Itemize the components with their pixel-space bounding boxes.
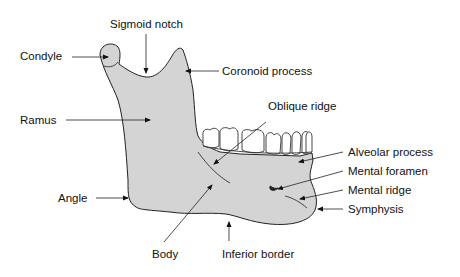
label-angle: Angle — [58, 192, 87, 204]
label-sigmoid-notch: Sigmoid notch — [110, 18, 183, 30]
label-coronoid-process: Coronoid process — [222, 65, 312, 77]
label-condyle: Condyle — [20, 50, 62, 62]
label-alveolar-process: Alveolar process — [348, 146, 433, 158]
label-mental-foramen: Mental foramen — [348, 165, 428, 177]
label-inferior-border: Inferior border — [222, 248, 294, 260]
label-mental-ridge: Mental ridge — [348, 184, 411, 196]
mandible-diagram: Sigmoid notch Condyle Coronoid process R… — [0, 0, 460, 277]
label-oblique-ridge: Oblique ridge — [268, 100, 336, 112]
teeth — [203, 128, 312, 155]
label-ramus: Ramus — [20, 114, 57, 126]
label-body: Body — [152, 248, 178, 260]
label-symphysis: Symphysis — [348, 203, 404, 215]
